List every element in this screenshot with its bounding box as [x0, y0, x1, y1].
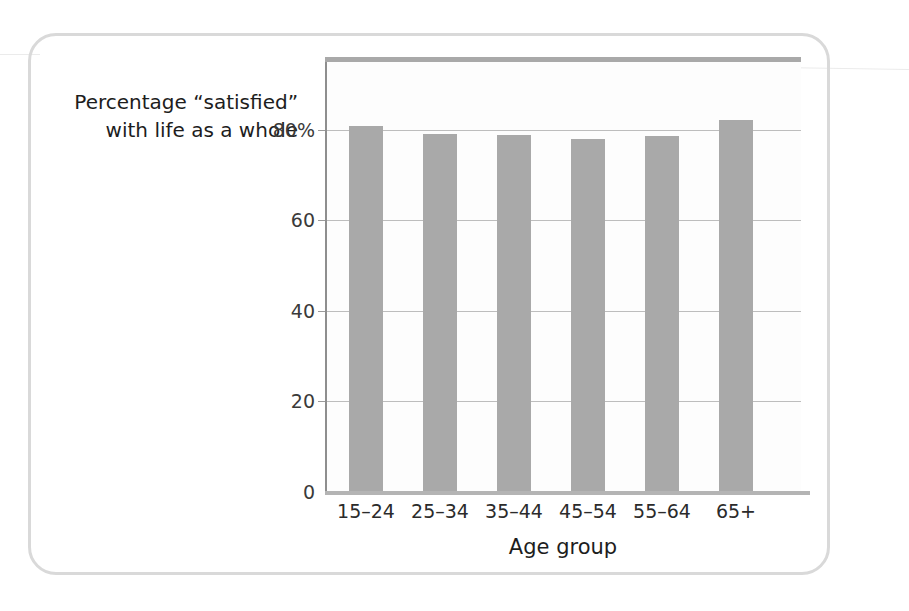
- bar: [423, 134, 457, 492]
- y-axis-tick-labels: 020406080%: [243, 62, 315, 492]
- x-axis-title: Age group: [325, 535, 801, 559]
- y-axis-line: [325, 62, 327, 493]
- y-axis-tick-mark: [318, 401, 325, 402]
- bar: [349, 126, 383, 492]
- chart-page: Percentage “satisfied” with life as a wh…: [0, 0, 909, 611]
- bar: [571, 139, 605, 492]
- x-axis-tick-label: 65+: [691, 500, 781, 523]
- bar: [645, 136, 679, 492]
- y-axis-tick-mark: [318, 220, 325, 221]
- y-axis-tick-label: 0: [303, 483, 315, 502]
- y-axis-tick-label: 60: [291, 211, 315, 230]
- x-axis-line: [325, 491, 810, 495]
- bar: [719, 120, 753, 492]
- y-axis-tick-mark: [318, 311, 325, 312]
- x-axis-tick-labels: 15–2425–3435–4445–5455–6465+: [325, 500, 801, 530]
- bar: [497, 135, 531, 492]
- y-axis-tick-label: 20: [291, 392, 315, 411]
- y-axis-tick-label: 40: [291, 302, 315, 321]
- y-axis-tick-mark: [318, 130, 325, 131]
- y-axis-tick-label: 80%: [273, 121, 315, 140]
- plot-area: [325, 62, 801, 492]
